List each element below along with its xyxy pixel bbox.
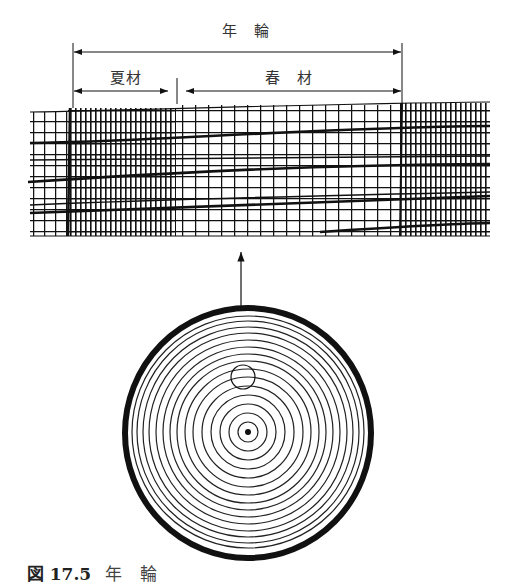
wood-cell-strip (28, 102, 490, 236)
figure-number: 図 17.5 (27, 564, 91, 584)
figure-title: 年 輪 (105, 564, 162, 584)
dimension-arrow-latewood (74, 78, 177, 104)
pith-dot (245, 429, 251, 435)
log-cross-section (125, 308, 371, 558)
figure-caption: 図 17.5年 輪 (16, 540, 163, 585)
dimension-arrow-annual-ring (73, 43, 402, 110)
